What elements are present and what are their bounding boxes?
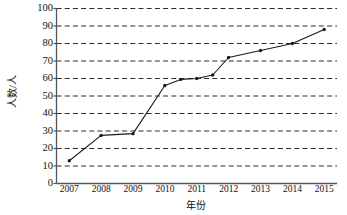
plot-area	[0, 0, 347, 215]
line-chart: 人数/人 年份 0102030405060708090100 200720082…	[0, 0, 347, 215]
data-markers	[68, 28, 326, 163]
data-line	[69, 30, 324, 161]
x-tick-label: 2015	[304, 184, 344, 194]
gridlines	[57, 9, 338, 167]
